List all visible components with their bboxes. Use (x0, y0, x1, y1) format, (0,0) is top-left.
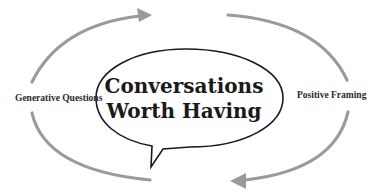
center-title-line-2: Worth Having (104, 99, 264, 124)
label-positive-framing: Positive Framing (297, 90, 366, 100)
center-title: Conversations Worth Having (104, 74, 264, 124)
label-generative-questions: Generative Questions (15, 93, 102, 103)
center-title-line-1: Conversations (104, 74, 264, 99)
